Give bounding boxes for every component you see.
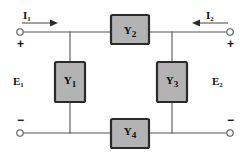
polarity-sign-top-right: + xyxy=(227,38,234,50)
circuit-diagram: Y1 Y2 Y3 Y4 I1 I2 E1 E2 + + − − xyxy=(0,0,250,164)
admittance-label-y1-text: Y xyxy=(64,74,72,86)
admittance-label-y3-text: Y xyxy=(166,74,174,86)
voltage-label-e1: E1 xyxy=(13,76,24,87)
admittance-label-y2-text: Y xyxy=(124,24,132,36)
polarity-sign-top-left: + xyxy=(17,38,24,50)
current-label-i1-sub: 1 xyxy=(27,15,30,22)
current-arrow-i2-head xyxy=(192,20,200,27)
admittance-label-y3: Y3 xyxy=(166,75,179,89)
polarity-sign-bottom-right: − xyxy=(227,114,234,126)
terminal-bottom-left xyxy=(17,130,23,136)
admittance-label-y4: Y4 xyxy=(124,126,137,140)
current-label-i1: I1 xyxy=(23,10,31,21)
current-arrow-i1-head xyxy=(50,20,58,27)
terminal-top-left xyxy=(17,29,23,35)
admittance-label-y2: Y2 xyxy=(124,25,137,39)
terminal-top-right xyxy=(227,29,233,35)
terminal-bottom-right xyxy=(227,130,233,136)
admittance-label-y4-text: Y xyxy=(124,125,132,137)
admittance-label-y3-sub: 3 xyxy=(174,79,179,89)
current-label-i2: I2 xyxy=(206,10,214,21)
admittance-label-y2-sub: 2 xyxy=(132,29,137,39)
voltage-label-e2: E2 xyxy=(212,76,223,87)
voltage-label-e2-sub: 2 xyxy=(219,81,222,88)
voltage-label-e1-sub: 1 xyxy=(20,81,23,88)
polarity-sign-bottom-left: − xyxy=(17,114,24,126)
admittance-label-y4-sub: 4 xyxy=(132,130,137,140)
current-label-i2-sub: 2 xyxy=(210,15,213,22)
admittance-label-y1-sub: 1 xyxy=(72,79,77,89)
admittance-label-y1: Y1 xyxy=(64,75,77,89)
